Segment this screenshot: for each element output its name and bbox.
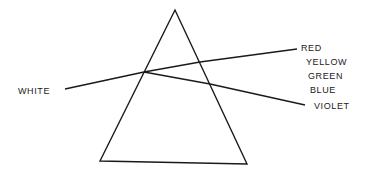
violet-ray — [144, 72, 305, 105]
label-blue: BLUE — [310, 85, 336, 95]
label-red: RED — [301, 43, 322, 53]
label-white: WHITE — [18, 86, 50, 96]
label-violet: VIOLET — [314, 101, 350, 111]
label-yellow: YELLOW — [306, 57, 347, 67]
white-light-ray — [65, 72, 144, 89]
red-ray — [144, 49, 297, 72]
label-green: GREEN — [308, 71, 343, 81]
